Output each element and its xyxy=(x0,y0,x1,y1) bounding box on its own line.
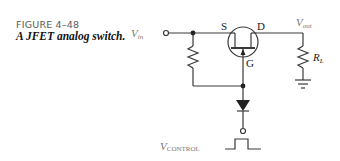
gate-arrow-icon xyxy=(241,49,246,55)
output-label: Vout xyxy=(296,16,313,30)
circuit-diagram: Vin Vout S D G RL VCONTROL xyxy=(0,0,340,161)
gate-label: G xyxy=(246,57,254,69)
pulse-waveform-icon xyxy=(225,139,261,149)
junction-dot-gate xyxy=(241,84,246,89)
control-terminal-icon xyxy=(241,129,246,134)
bias-resistor-icon xyxy=(188,46,198,68)
junction-dot-input xyxy=(191,31,196,36)
load-label: RL xyxy=(312,51,324,65)
input-terminal-icon xyxy=(164,31,169,36)
diode-icon xyxy=(236,100,250,111)
load-resistor-icon xyxy=(298,46,308,68)
control-label: VCONTROL xyxy=(160,140,200,153)
drain-label: D xyxy=(257,20,265,32)
source-label: S xyxy=(221,20,227,32)
input-label: Vin xyxy=(131,27,144,41)
